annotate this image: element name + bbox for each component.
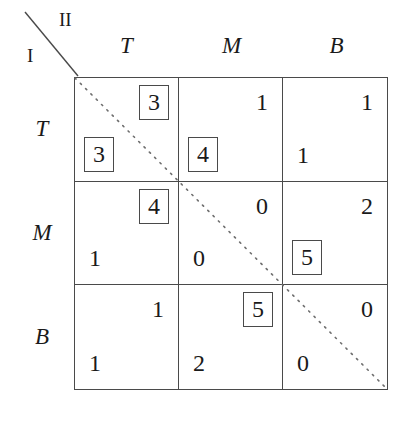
payoff-grid: 3 3 1 4 1 1 4 1 0 0 2 5 1 1 5 2: [74, 77, 388, 390]
payoff-row-player: 5: [292, 240, 322, 275]
cell-m-m: 0 0: [179, 182, 283, 286]
payoff-column-player: 1: [152, 297, 164, 321]
cell-t-t: 3 3: [75, 78, 179, 182]
column-player-label: II: [59, 10, 72, 29]
cell-t-m: 1 4: [179, 78, 283, 182]
cell-t-b: 1 1: [283, 78, 387, 182]
payoff-column-player: 3: [139, 85, 169, 120]
payoff-column-player: 1: [361, 90, 373, 114]
payoff-row-player: 3: [84, 137, 114, 172]
row-header-m: M: [14, 221, 70, 244]
payoff-column-player: 0: [361, 297, 373, 321]
column-header-t: T: [74, 34, 179, 57]
cell-b-t: 1 1: [75, 285, 179, 389]
payoff-row-player: 1: [89, 246, 101, 270]
cell-m-b: 2 5: [283, 182, 387, 286]
payoff-row-player: 0: [193, 246, 205, 270]
payoff-column-player: 1: [256, 90, 268, 114]
payoff-row-player: 2: [193, 351, 205, 375]
row-player-label: I: [27, 46, 33, 65]
payoff-row-player: 1: [297, 143, 309, 167]
payoff-row-player: 0: [297, 351, 309, 375]
cell-b-m: 5 2: [179, 285, 283, 389]
payoff-column-player: 2: [361, 194, 373, 218]
cell-m-t: 4 1: [75, 182, 179, 286]
payoff-column-player: 0: [256, 194, 268, 218]
payoff-column-player: 4: [139, 189, 169, 224]
payoff-matrix-figure: II I T M B T M B 3 3 1 4 1 1 4 1 0 0 2 5: [0, 0, 415, 423]
payoff-column-player: 5: [243, 292, 273, 327]
cell-b-b: 0 0: [283, 285, 387, 389]
column-header-m: M: [179, 34, 284, 57]
payoff-row-player: 1: [89, 351, 101, 375]
row-header-t: T: [14, 117, 70, 140]
payoff-row-player: 4: [188, 137, 218, 172]
column-header-b: B: [284, 34, 389, 57]
row-header-b: B: [14, 325, 70, 348]
